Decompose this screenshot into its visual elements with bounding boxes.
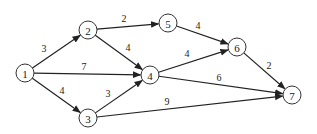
graph-diagram: 37424394462 1234567: [0, 0, 317, 134]
edge-weight-4-6: 4: [185, 48, 190, 59]
edge-weight-4-7: 6: [217, 72, 222, 83]
edge-weight-2-5: 2: [122, 13, 127, 24]
edge-1-3: [32, 78, 80, 112]
edge-1-2: [32, 35, 80, 68]
edge-weight-2-4: 4: [126, 42, 131, 53]
edge-weight-3-7: 9: [165, 96, 170, 107]
node-label: 7: [289, 90, 295, 102]
node-label: 1: [22, 68, 28, 80]
node-label: 4: [147, 70, 153, 82]
edge-weight-3-4: 3: [106, 88, 111, 99]
node-1: 1: [16, 64, 34, 82]
edge-2-5: [97, 24, 159, 29]
node-3: 3: [79, 109, 97, 127]
node-4: 4: [141, 66, 159, 84]
node-label: 6: [234, 42, 240, 54]
edge-3-7: [97, 96, 283, 117]
edge-weight-1-3: 4: [60, 85, 65, 96]
edge-3-4: [95, 80, 142, 112]
edge-weight-5-6: 4: [196, 20, 201, 31]
node-2: 2: [79, 21, 97, 39]
node-label: 5: [165, 18, 171, 30]
edges-layer: [32, 24, 285, 117]
node-7: 7: [283, 86, 301, 104]
edge-weight-1-2: 3: [42, 43, 47, 54]
node-label: 3: [85, 113, 91, 125]
edge-6-7: [244, 53, 285, 89]
edge-weights-layer: 37424394462: [42, 13, 272, 107]
edge-4-6: [159, 50, 228, 72]
edge-5-6: [177, 26, 229, 44]
node-6: 6: [228, 38, 246, 56]
edge-weight-6-7: 2: [267, 60, 272, 71]
node-5: 5: [159, 14, 177, 32]
node-label: 2: [85, 25, 91, 37]
edge-2-4: [95, 35, 142, 69]
edge-weight-1-4: 7: [82, 61, 87, 72]
edge-1-4: [34, 73, 141, 75]
